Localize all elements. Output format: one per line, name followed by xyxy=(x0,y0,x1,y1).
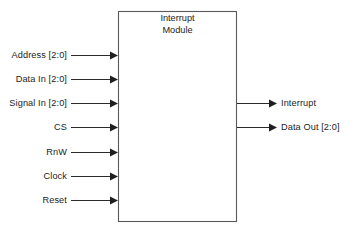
input-wire-address xyxy=(71,52,118,60)
module-title: Interrupt Module xyxy=(118,13,237,36)
block-diagram: Interrupt Module Address [2:0] Data In [… xyxy=(0,0,353,232)
input-label-reset: Reset xyxy=(0,195,67,206)
input-wire-data-in xyxy=(71,76,118,84)
input-wire-reset xyxy=(71,197,118,205)
output-wire-data-out xyxy=(237,124,277,132)
input-label-address: Address [2:0] xyxy=(0,50,67,61)
input-label-signal-in: Signal In [2:0] xyxy=(0,98,67,109)
input-label-clock: Clock xyxy=(0,171,67,182)
input-wire-cs xyxy=(71,124,118,132)
input-label-cs: CS xyxy=(0,122,67,133)
output-label-data-out: Data Out [2:0] xyxy=(281,122,340,133)
input-wire-rnw xyxy=(71,149,118,157)
input-label-rnw: RnW xyxy=(0,147,67,158)
input-label-data-in: Data In [2:0] xyxy=(0,74,67,85)
module-title-line-2: Module xyxy=(118,25,237,37)
input-wire-signal-in xyxy=(71,100,118,108)
input-wire-clock xyxy=(71,173,118,181)
module-title-line-1: Interrupt xyxy=(118,13,237,25)
interrupt-module-box xyxy=(119,12,237,222)
output-wire-interrupt xyxy=(237,100,277,108)
output-label-interrupt: Interrupt xyxy=(281,98,316,109)
